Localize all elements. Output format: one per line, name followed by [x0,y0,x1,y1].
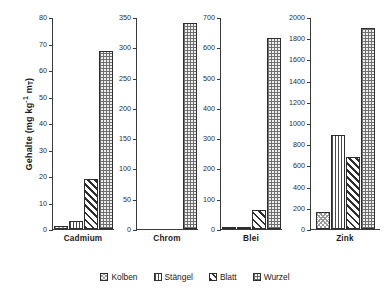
y-axis-tick-label: 400 [203,105,215,112]
bar-blatt-cadmium [84,179,98,229]
bar-slot [316,18,331,229]
y-axis-tick-label: 300 [203,136,215,143]
y-axis-tick-label: 200 [293,205,305,212]
bar-stngel-zink [331,135,345,229]
bar-slot [346,18,361,229]
y-axis-tick-label: 100 [119,166,131,173]
bar-slot [267,18,282,229]
y-axis-tick-label: 1200 [289,99,305,106]
bar-kolben-zink [316,212,330,229]
y-axis-title-subscript: T [27,81,34,85]
bar-wurzel-cadmium [99,51,113,229]
bar-blatt-blei [252,210,266,229]
legend-swatch-icon [253,273,261,281]
bar-slot [237,18,252,229]
y-axis-tick-label: 1600 [289,57,305,64]
y-axis-tick-label: 30 [39,147,47,154]
bar-slot [252,18,267,229]
bar-slot [331,18,346,229]
y-axis-tick-label: 0 [301,226,305,233]
y-axis-tick-label: 500 [203,75,215,82]
bar-group [137,18,198,229]
y-axis-tick-label: 2000 [289,14,305,21]
y-axis-tick-label: 800 [293,142,305,149]
y-axis-tick-label: 40 [39,120,47,127]
legend-swatch-icon [100,273,108,281]
y-axis-tick-label: 50 [39,94,47,101]
y-axis-tick-label: 1400 [289,78,305,85]
panel-zink: 0200400600800100012001400160018002000Zin… [310,18,380,248]
legend-item-wurzel[interactable]: Wurzel [253,272,290,282]
y-axis-tick-label: 400 [293,184,305,191]
bar-slot [361,18,376,229]
bar-slot [84,18,99,229]
y-axis-tick-label: 150 [119,136,131,143]
y-axis-tick-label: 60 [39,67,47,74]
bar-slot [138,18,153,229]
category-label-cadmium: Cadmium [52,234,114,243]
panel-chrom: 050100150200250300350Chrom [136,18,198,248]
plot-area-zink: 0200400600800100012001400160018002000 [310,18,380,230]
bar-kolben-blei [222,227,236,229]
y-axis-tick-label: 50 [123,196,131,203]
chart-legend: KolbenStängelBlattWurzel [0,272,390,282]
legend-item-blatt[interactable]: Blatt [209,272,237,282]
bar-slot [99,18,114,229]
bar-wurzel-chrom [183,23,197,229]
bar-slot [54,18,69,229]
y-axis-title-exponent: -1 [22,96,29,103]
y-axis-title-tail: ) [24,78,34,81]
y-axis-tick-label: 250 [119,75,131,82]
y-axis-tick-label: 600 [203,45,215,52]
bar-stngel-cadmium [69,221,83,229]
y-axis-tick-label: 10 [39,200,47,207]
y-axis-tick-label: 700 [203,14,215,21]
category-label-blei: Blei [220,234,282,243]
bar-blatt-zink [346,157,360,229]
y-axis-tick [307,230,311,231]
legend-label: Blatt [220,272,237,282]
y-axis-tick-label: 1000 [289,120,305,127]
category-label-zink: Zink [310,234,380,243]
y-axis-title-main: Gehalte (mg kg [24,103,34,171]
y-axis-tick-label: 70 [39,41,47,48]
bar-slot [69,18,84,229]
legend-label: Kolben [111,272,137,282]
panel-cadmium: 01020304050607080Cadmium [52,18,114,248]
bar-slot [153,18,168,229]
y-axis-tick-label: 350 [119,14,131,21]
bar-stngel-blei [237,227,251,229]
plot-area-cadmium: 01020304050607080 [52,18,114,230]
y-axis-tick-label: 0 [211,226,215,233]
plot-area-blei: 0100200300400500600700 [220,18,282,230]
plot-area-chrom: 050100150200250300350 [136,18,198,230]
y-axis-tick-label: 1800 [289,36,305,43]
bar-kolben-cadmium [54,226,68,229]
y-axis-tick [49,230,53,231]
chart-figure: Gehalte (mg kg-1 mT) 01020304050607080Ca… [0,0,390,297]
legend-item-kolben[interactable]: Kolben [100,272,137,282]
bar-group [221,18,282,229]
bar-slot [168,18,183,229]
bar-wurzel-blei [267,38,281,229]
bar-group [311,18,380,229]
y-axis-tick [217,230,221,231]
y-axis-tick-label: 0 [43,226,47,233]
y-axis-tick-label: 20 [39,173,47,180]
y-axis-tick [133,230,137,231]
legend-item-stngel[interactable]: Stängel [154,272,193,282]
y-axis-tick-label: 200 [203,166,215,173]
y-axis-title: Gehalte (mg kg-1 mT) [22,49,34,199]
category-label-chrom: Chrom [136,234,198,243]
legend-label: Wurzel [264,272,290,282]
y-axis-tick-label: 80 [39,14,47,21]
y-axis-tick-label: 300 [119,45,131,52]
panel-blei: 0100200300400500600700Blei [220,18,282,248]
bar-slot [222,18,237,229]
legend-swatch-icon [209,273,217,281]
y-axis-tick-label: 100 [203,196,215,203]
legend-label: Stängel [165,272,193,282]
y-axis-title-mid: m [24,85,34,96]
y-axis-tick-label: 200 [119,105,131,112]
bar-slot [183,18,198,229]
